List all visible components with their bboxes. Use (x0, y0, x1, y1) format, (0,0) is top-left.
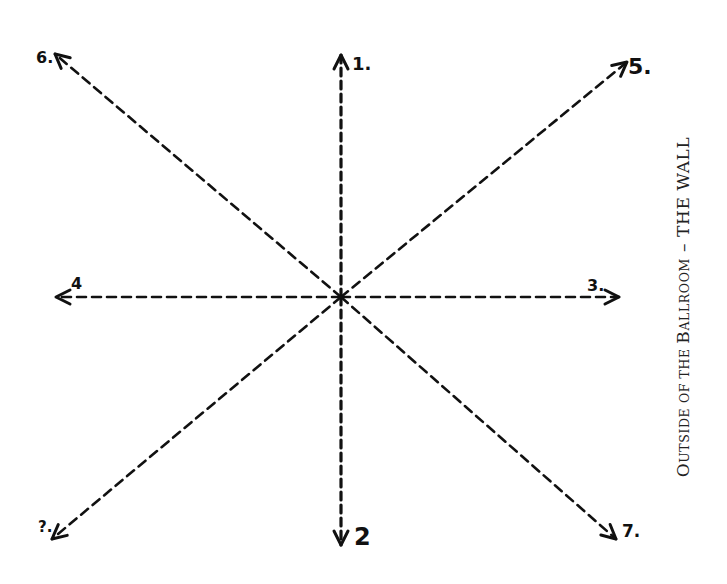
caption-initial-b: B (673, 331, 693, 344)
caption-the-wall: THE WALL (673, 137, 693, 237)
dashed-line (341, 62, 627, 297)
direction-down-arrow: 2 (334, 297, 371, 551)
caption-initial-o: O (673, 463, 693, 478)
dashed-line (52, 297, 341, 539)
caption-outside-of-the: UTSIDE OF THE (677, 344, 692, 463)
caption-ballroom: ALLROOM (677, 258, 692, 331)
direction-up-arrow: 1. (334, 53, 371, 297)
direction-label-7: 7. (622, 521, 640, 541)
direction-label-6: 6. (36, 48, 53, 67)
caption-separator: – (673, 237, 693, 258)
direction-left-arrow: 4 (56, 274, 341, 304)
direction-diagram: 1.23.45.6.7.?. (0, 0, 727, 584)
direction-label-8: ?. (38, 518, 52, 536)
direction-up-left-arrow: 6. (36, 48, 341, 297)
direction-label-1: 1. (352, 53, 371, 74)
dashed-line (55, 54, 341, 297)
diagram-caption: OUTSIDE OF THE BALLROOM – THE WALL (673, 137, 693, 478)
direction-down-right-arrow: 7. (341, 297, 640, 541)
direction-label-5: 5. (628, 54, 652, 79)
dashed-line (341, 297, 616, 539)
direction-label-4: 4 (71, 274, 82, 293)
direction-label-2: 2 (354, 523, 371, 551)
direction-label-3: 3. (587, 276, 604, 295)
direction-down-left-arrow: ?. (38, 297, 341, 539)
direction-right-arrow: 3. (341, 276, 619, 304)
direction-up-right-arrow: 5. (341, 54, 652, 297)
